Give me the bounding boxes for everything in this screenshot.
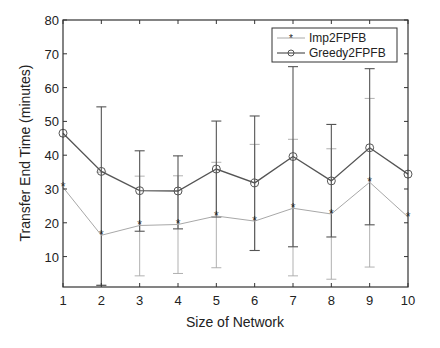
legend-item-imp2fpfb: * Imp2FPFB	[277, 31, 366, 45]
x-tick-label: 10	[401, 293, 415, 308]
x-tick-label: 6	[251, 293, 258, 308]
asterisk-marker-icon: *	[367, 175, 372, 189]
x-tick-label: 1	[59, 293, 66, 308]
x-tick-label: 3	[136, 293, 143, 308]
asterisk-marker-icon: *	[291, 201, 296, 215]
x-tick-label: 8	[328, 293, 335, 308]
asterisk-marker-icon: *	[252, 214, 257, 228]
chart-container: ********** 102030405060708012345678910 S…	[0, 0, 440, 348]
y-tick-label: 50	[45, 114, 59, 129]
asterisk-marker-icon: *	[289, 33, 293, 44]
x-tick-label: 9	[366, 293, 373, 308]
series-line-greedy2fpfb	[63, 133, 408, 191]
x-tick-label: 2	[98, 293, 105, 308]
x-axis-label: Size of Network	[186, 314, 285, 330]
y-tick-label: 40	[45, 148, 59, 163]
y-tick-label: 80	[45, 13, 59, 28]
legend-label-imp: Imp2FPFB	[309, 31, 366, 45]
y-tick-label: 10	[45, 250, 59, 265]
x-tick-label: 4	[174, 293, 181, 308]
asterisk-marker-icon: *	[214, 209, 219, 223]
legend: * Imp2FPFB Greedy2FPFB	[272, 28, 397, 62]
line-chart: ********** 102030405060708012345678910 S…	[0, 0, 440, 348]
y-tick-label: 70	[45, 47, 59, 62]
x-tick-label: 5	[213, 293, 220, 308]
asterisk-marker-icon: *	[137, 218, 142, 232]
y-axis-label: Transfer End Time (minutes)	[17, 65, 33, 242]
series-lines: **********	[59, 129, 412, 242]
y-tick-label: 60	[45, 81, 59, 96]
asterisk-marker-icon: *	[329, 207, 334, 221]
asterisk-marker-icon: *	[99, 228, 104, 242]
x-tick-label: 7	[289, 293, 296, 308]
series-line-imp2fpfb	[63, 182, 408, 235]
asterisk-marker-icon: *	[176, 217, 181, 231]
y-tick-label: 20	[45, 216, 59, 231]
legend-label-greedy: Greedy2FPFB	[309, 46, 386, 60]
y-tick-label: 30	[45, 182, 59, 197]
